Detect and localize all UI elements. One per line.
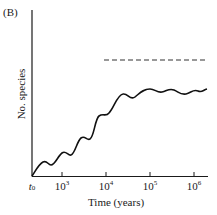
x-ticks	[62, 172, 194, 177]
x-tick-1e6: 106	[187, 180, 202, 192]
x-tick-1e4: 104	[99, 180, 114, 192]
x-tick-1e3: 103	[55, 180, 70, 192]
x-tick-t0: t0	[29, 180, 36, 192]
x-axis-label: Time (years)	[88, 196, 144, 208]
species-curve	[32, 89, 207, 176]
x-tick-1e5: 105	[143, 180, 158, 192]
